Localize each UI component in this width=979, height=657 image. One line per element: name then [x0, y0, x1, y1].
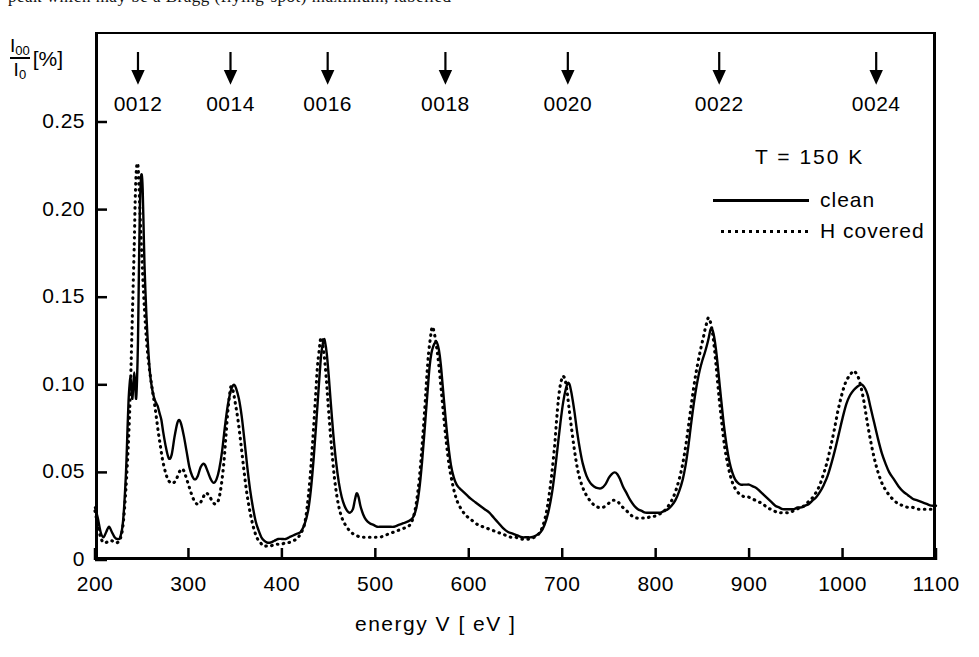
y-tick-label: 0.25 — [42, 109, 85, 133]
x-tick-label: 500 — [325, 572, 425, 596]
bragg-label-0024: 0024 — [852, 92, 901, 116]
y-axis-title: I00 I0 [%] — [10, 36, 63, 80]
x-tick-label: 400 — [232, 572, 332, 596]
x-axis-title: energy V [ eV ] — [355, 612, 516, 636]
bragg-label-0018: 0018 — [421, 92, 470, 116]
legend-label-h-covered: H covered — [820, 219, 925, 243]
bragg-label-0016: 0016 — [303, 92, 352, 116]
legend-item-h-covered: H covered — [713, 219, 925, 243]
y-tick-label: 0 — [73, 547, 85, 571]
y-axis-unit: [%] — [33, 48, 63, 69]
x-tick-label: 600 — [419, 572, 519, 596]
x-tick-label: 800 — [606, 572, 706, 596]
legend-swatch-solid — [713, 193, 809, 207]
y-tick-label: 0.10 — [42, 372, 85, 396]
legend-label-clean: clean — [820, 188, 875, 212]
y-axis-denominator: I0 — [14, 60, 27, 80]
y-tick-label: 0.20 — [42, 197, 85, 221]
x-tick-label: 900 — [699, 572, 799, 596]
x-tick-label: 1000 — [793, 572, 893, 596]
x-tick-label: 1100 — [886, 572, 979, 596]
x-tick-label: 200 — [45, 572, 145, 596]
bragg-label-0020: 0020 — [543, 92, 592, 116]
chart-figure: peak which may be a Bragg (flying-spot) … — [0, 0, 979, 657]
y-tick-label: 0.15 — [42, 284, 85, 308]
x-tick-label: 300 — [138, 572, 238, 596]
temperature-annotation: T = 150 K — [755, 145, 864, 169]
y-axis-fraction: I00 I0 — [10, 36, 30, 80]
x-tick-label: 700 — [512, 572, 612, 596]
cropped-caption-text: peak which may be a Bragg (flying-spot) … — [8, 0, 979, 7]
cropped-caption-sliver: peak which may be a Bragg (flying-spot) … — [0, 0, 979, 14]
bragg-label-0014: 0014 — [206, 92, 255, 116]
y-axis-numerator: I00 — [10, 36, 30, 56]
y-tick-label: 0.05 — [42, 459, 85, 483]
bragg-label-0012: 0012 — [114, 92, 163, 116]
bragg-label-0022: 0022 — [695, 92, 744, 116]
legend: clean H covered — [713, 188, 925, 250]
legend-swatch-dotted — [713, 224, 809, 238]
legend-item-clean: clean — [713, 188, 925, 212]
